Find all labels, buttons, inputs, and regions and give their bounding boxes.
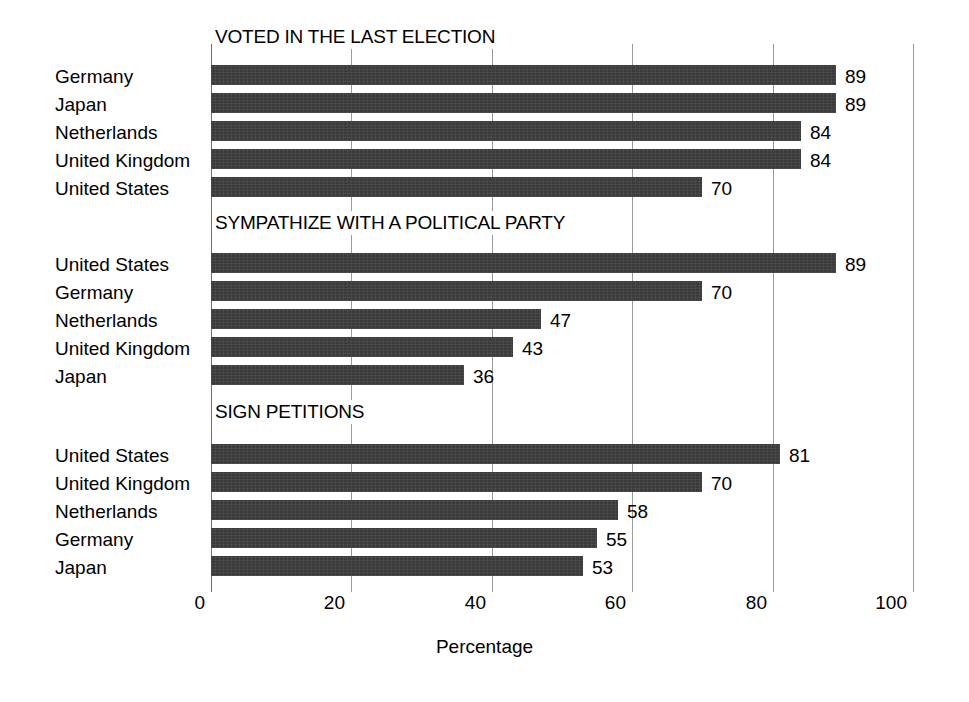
- category-label: Germany: [55, 67, 205, 87]
- bar: [211, 500, 618, 520]
- x-axis-title: Percentage: [0, 636, 969, 658]
- category-label: Japan: [55, 367, 205, 387]
- category-label: Germany: [55, 283, 205, 303]
- bar: [211, 93, 836, 113]
- bar-value: 70: [711, 474, 732, 494]
- xtick-label: 80: [746, 592, 773, 614]
- category-label: Netherlands: [55, 311, 205, 331]
- panel-title-petitions: SIGN PETITIONS: [213, 400, 370, 424]
- xtick-label: 60: [605, 592, 632, 614]
- bar-value: 43: [522, 339, 543, 359]
- bar-value: 89: [845, 255, 866, 275]
- bar: [211, 444, 780, 464]
- bar-value: 89: [845, 95, 866, 115]
- bar: [211, 253, 836, 273]
- category-label: Netherlands: [55, 123, 205, 143]
- bar-value: 53: [592, 558, 613, 578]
- bar-value: 89: [845, 67, 866, 87]
- xtick-label: 100: [875, 592, 913, 614]
- bar: [211, 528, 597, 548]
- bar: [211, 177, 702, 197]
- bar: [211, 556, 583, 576]
- bar-value: 70: [711, 283, 732, 303]
- bar: [211, 309, 541, 329]
- bar-value: 47: [550, 311, 571, 331]
- bar: [211, 65, 836, 85]
- bar-value: 70: [711, 179, 732, 199]
- bar-value: 84: [810, 123, 831, 143]
- panel-title-sympathize: SYMPATHIZE WITH A POLITICAL PARTY: [213, 211, 571, 235]
- political-participation-bar-chart: VOTED IN THE LAST ELECTION Germany 89 Ja…: [0, 0, 969, 702]
- category-label: United Kingdom: [55, 474, 205, 494]
- category-label: Netherlands: [55, 502, 205, 522]
- bar-value: 58: [627, 502, 648, 522]
- bar-value: 84: [810, 151, 831, 171]
- category-label: United States: [55, 179, 205, 199]
- bar: [211, 365, 464, 385]
- category-label: Germany: [55, 530, 205, 550]
- category-label: Japan: [55, 95, 205, 115]
- bar-value: 36: [473, 367, 494, 387]
- category-label: United Kingdom: [55, 339, 205, 359]
- bar-value: 55: [606, 530, 627, 550]
- bar: [211, 472, 702, 492]
- xtick-label: 40: [465, 592, 492, 614]
- category-label: United Kingdom: [55, 151, 205, 171]
- category-label: Japan: [55, 558, 205, 578]
- bar: [211, 281, 702, 301]
- xtick-label: 20: [324, 592, 351, 614]
- category-label: United States: [55, 446, 205, 466]
- bar: [211, 337, 513, 357]
- bar-value: 81: [789, 446, 810, 466]
- xtick-label: 0: [194, 592, 211, 614]
- gridline-100: [913, 44, 914, 592]
- bar: [211, 149, 801, 169]
- panel-title-voted: VOTED IN THE LAST ELECTION: [213, 25, 501, 49]
- category-label: United States: [55, 255, 205, 275]
- bar: [211, 121, 801, 141]
